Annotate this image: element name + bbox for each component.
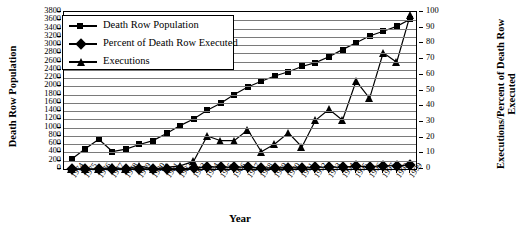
- y-axis-left-tick-mark: [57, 94, 61, 95]
- legend-label: Death Row Population: [103, 18, 199, 31]
- y-axis-right-tick-mark: [419, 121, 423, 122]
- x-axis-ticks: 1974197519761977197819791980198119821983…: [63, 170, 417, 212]
- y-axis-right-tick-label: 90: [426, 23, 434, 31]
- legend-item: Death Row Population: [63, 18, 233, 34]
- data-point-marker: [150, 138, 156, 144]
- y-axis-right-tick-mark: [419, 74, 423, 75]
- data-point-marker: [312, 60, 318, 66]
- gridline: [64, 152, 416, 153]
- y-axis-left-tick-mark: [57, 135, 61, 136]
- gridline: [64, 111, 416, 112]
- y-axis-right-tick-label: 40: [426, 101, 434, 109]
- y-axis-right-tick-label: 80: [426, 38, 434, 46]
- y-axis-right-tick-label: 10: [426, 148, 434, 156]
- y-axis-left-tick-mark: [57, 151, 61, 152]
- y-axis-right-tick-label: 0: [426, 164, 430, 172]
- y-axis-left-ticks: 0200400600800100012001400160018002000220…: [0, 0, 61, 180]
- gridline: [64, 78, 416, 79]
- y-axis-left-tick-mark: [57, 44, 61, 45]
- y-axis-left-tick-mark: [57, 118, 61, 119]
- data-point-marker: [326, 54, 332, 60]
- y-axis-right-ticks: 0102030405060708090100: [419, 0, 459, 180]
- y-axis-right-tick-mark: [419, 42, 423, 43]
- data-point-marker: [123, 146, 129, 152]
- y-axis-right-tick-label: 70: [426, 54, 434, 62]
- gridline: [64, 119, 416, 120]
- gridline: [64, 144, 416, 145]
- y-axis-left-tick-mark: [57, 127, 61, 128]
- y-axis-left-tick-mark: [57, 110, 61, 111]
- y-axis-left-tick-mark: [57, 102, 61, 103]
- data-point-marker: [406, 11, 414, 19]
- legend-marker-triangle: [77, 58, 85, 66]
- gridline: [64, 128, 416, 129]
- legend-item: Percent of Death Row Executed: [63, 36, 233, 52]
- data-point-marker: [82, 146, 88, 152]
- y-axis-right-tick-label: 60: [426, 70, 434, 78]
- gridline: [64, 136, 416, 137]
- y-axis-right-tick-mark: [419, 27, 423, 28]
- data-point-marker: [96, 136, 102, 142]
- y-axis-right-tick-label: 50: [426, 86, 434, 94]
- y-axis-right-tick-label: 20: [426, 133, 434, 141]
- y-axis-left-tick-mark: [57, 52, 61, 53]
- legend-line: [69, 25, 97, 27]
- y-axis-right-tick-label: 30: [426, 117, 434, 125]
- y-axis-right-title: Executions/Percent of Death Row Executed: [495, 5, 517, 183]
- y-axis-right-tick-mark: [419, 105, 423, 106]
- legend-item: Executions: [63, 54, 233, 70]
- y-axis-left-tick-mark: [57, 36, 61, 37]
- legend-marker-square: [77, 23, 83, 29]
- chart-container: Death Row Population Executions/Percent …: [0, 0, 519, 232]
- legend-label: Executions: [103, 54, 150, 67]
- y-axis-right-tick-mark: [419, 90, 423, 91]
- y-axis-left-tick-mark: [57, 28, 61, 29]
- y-axis-right-tick-mark: [419, 152, 423, 153]
- y-axis-left-tick-mark: [57, 168, 61, 169]
- chart-legend: Death Row PopulationPercent of Death Row…: [62, 15, 234, 70]
- legend-label: Percent of Death Row Executed: [103, 36, 238, 49]
- data-point-marker: [299, 63, 305, 69]
- data-point-marker: [258, 78, 264, 84]
- x-axis-title: Year: [140, 213, 340, 224]
- y-axis-right-tick-mark: [419, 58, 423, 59]
- y-axis-left-tick-mark: [57, 11, 61, 12]
- y-axis-left-tick-mark: [57, 69, 61, 70]
- y-axis-left-tick-mark: [57, 61, 61, 62]
- data-point-marker: [340, 47, 346, 53]
- y-axis-left-tick-mark: [57, 77, 61, 78]
- y-axis-right-tick-mark: [419, 137, 423, 138]
- y-axis-left-tick-mark: [57, 160, 61, 161]
- y-axis-left-tick-mark: [57, 143, 61, 144]
- gridline: [64, 103, 416, 104]
- y-axis-left-tick-mark: [57, 85, 61, 86]
- gridline: [64, 86, 416, 87]
- legend-marker-diamond: [75, 38, 86, 49]
- gridline: [64, 95, 416, 96]
- y-axis-left-tick-mark: [57, 19, 61, 20]
- y-axis-right-tick-label: 100: [426, 7, 439, 15]
- y-axis-right-tick-mark: [419, 11, 423, 12]
